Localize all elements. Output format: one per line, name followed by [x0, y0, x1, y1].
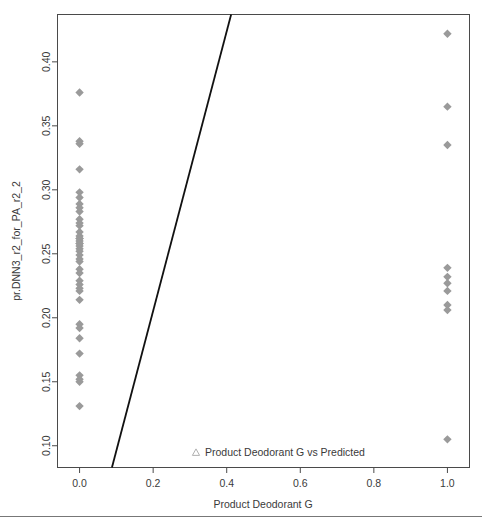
data-point-marker [443, 29, 451, 37]
y-tick-label: 0.35 [41, 115, 53, 136]
legend: Product Deodorant G vs Predicted [192, 446, 365, 458]
x-tick-label: 0.0 [72, 477, 87, 489]
data-point-marker [75, 349, 83, 357]
data-point-marker [443, 102, 451, 110]
data-point-marker [443, 279, 451, 287]
data-point-marker [443, 141, 451, 149]
legend-triangle-icon [192, 449, 199, 455]
y-axis-tick-labels: 0.100.150.200.250.300.350.40 [41, 51, 53, 455]
scatter-data-points [75, 29, 451, 443]
y-tick-label: 0.20 [41, 307, 53, 328]
data-point-marker [443, 435, 451, 443]
data-point-marker [75, 165, 83, 173]
y-tick-label: 0.25 [41, 243, 53, 264]
x-tick-label: 0.8 [367, 477, 382, 489]
x-axis-ticks [80, 468, 448, 474]
x-axis-title: Product Deodorant G [213, 498, 312, 510]
data-point-marker [75, 334, 83, 342]
data-point-marker [75, 296, 83, 304]
regression-fit-line [112, 15, 231, 468]
data-point-marker [75, 402, 83, 410]
data-point-marker [75, 88, 83, 96]
legend-label: Product Deodorant G vs Predicted [205, 446, 365, 458]
data-point-marker [443, 306, 451, 314]
y-axis-ticks [52, 62, 58, 446]
scatter-plot-figure: 0.00.20.40.60.81.0 0.100.150.200.250.300… [0, 0, 482, 530]
x-tick-label: 0.4 [219, 477, 234, 489]
x-axis-tick-labels: 0.00.20.40.60.81.0 [72, 477, 455, 489]
plot-frame [58, 15, 470, 468]
footer-divider [0, 516, 482, 517]
x-tick-label: 1.0 [440, 477, 455, 489]
y-axis-title: pr.DNN3_r2_for_PA_r2_2 [10, 181, 22, 301]
x-tick-label: 0.2 [146, 477, 161, 489]
plot-canvas: 0.00.20.40.60.81.0 0.100.150.200.250.300… [0, 0, 482, 530]
data-point-marker [443, 264, 451, 272]
data-point-marker [443, 287, 451, 295]
y-tick-label: 0.40 [41, 51, 53, 72]
y-tick-label: 0.15 [41, 371, 53, 392]
y-tick-label: 0.10 [41, 435, 53, 456]
x-tick-label: 0.6 [293, 477, 308, 489]
y-tick-label: 0.30 [41, 179, 53, 200]
